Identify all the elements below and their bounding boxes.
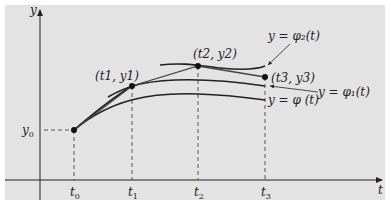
- t0-label: t0: [70, 185, 80, 201]
- t1-label: t1: [128, 185, 138, 201]
- point-t2-y2: [195, 63, 201, 69]
- phi1-pointer: [270, 86, 318, 92]
- label-t3-y3: (t3, y3): [271, 71, 315, 85]
- phi2-pointer: [268, 44, 290, 65]
- label-t2-y2: (t2, y2): [193, 47, 237, 61]
- t2-label: t2: [194, 185, 204, 201]
- label-phi2: y = φ₂(t): [267, 29, 320, 43]
- y0-label: y0: [21, 123, 34, 139]
- label-phi1: y = φ₁(t): [317, 85, 370, 99]
- dashed-guides: [44, 66, 265, 180]
- point-t3-y3: [262, 74, 268, 80]
- t3-label: t3: [261, 185, 271, 201]
- point-t1-y1: [129, 83, 135, 89]
- t-axis-label: t: [378, 183, 383, 197]
- label-t1-y1: (t1, y1): [95, 69, 139, 83]
- curve-phi: [74, 94, 265, 130]
- point-t0-y0: [71, 127, 77, 133]
- y-axis-label: y: [29, 3, 37, 17]
- euler-diagram: y t y0 t0 t1 t2 t3 (t1, y1) (t2, y2) (t3…: [0, 0, 390, 205]
- label-phi: y = φ (t): [267, 93, 319, 107]
